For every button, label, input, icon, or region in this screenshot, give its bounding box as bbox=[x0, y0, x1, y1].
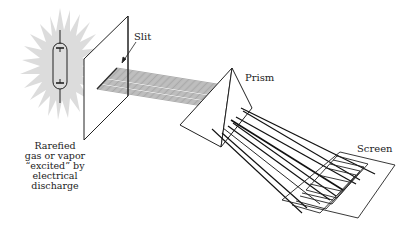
source-label-line: electrical discharge bbox=[14, 171, 96, 191]
diagram-drawing bbox=[0, 0, 408, 231]
screen-label: Screen bbox=[357, 143, 393, 154]
dispersed-rays bbox=[212, 108, 375, 213]
source-label: Rarefied gas or vapor “excited” by elect… bbox=[14, 141, 96, 191]
slit-label: Slit bbox=[134, 31, 151, 42]
prism-label: Prism bbox=[245, 72, 274, 83]
spectroscope-diagram: Slit Prism Screen Rarefied gas or vapor … bbox=[0, 0, 408, 231]
